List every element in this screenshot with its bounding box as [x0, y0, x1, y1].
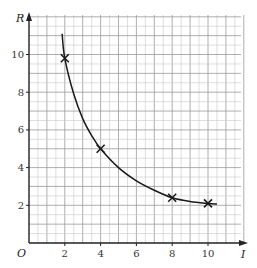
y-axis-label: R — [15, 12, 24, 25]
y-tick-label: 10 — [11, 49, 24, 60]
chart-axes — [26, 12, 248, 246]
chart-ticks: 246810246810 — [11, 49, 214, 259]
x-tick-label: 10 — [202, 248, 215, 259]
x-tick-label: 6 — [133, 248, 139, 259]
curve-path — [62, 34, 217, 204]
x-tick-label: 2 — [62, 248, 68, 259]
origin-label: O — [17, 247, 26, 260]
y-tick-label: 6 — [18, 124, 24, 135]
y-tick-label: 8 — [18, 87, 24, 98]
chart-grid — [29, 15, 244, 243]
x-axis-label: I — [240, 248, 246, 261]
best-fit-curve — [62, 34, 217, 204]
y-tick-label: 4 — [18, 162, 24, 173]
x-tick-label: 8 — [169, 248, 175, 259]
x-tick-label: 4 — [97, 248, 103, 259]
y-tick-label: 2 — [18, 200, 24, 211]
chart: 246810246810 R I O — [0, 0, 257, 268]
